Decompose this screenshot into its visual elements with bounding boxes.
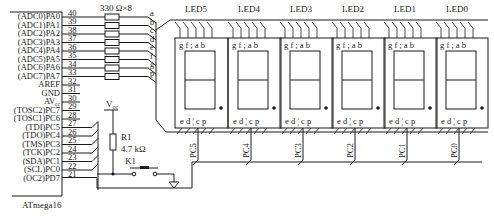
pins-bottom: e d ¦ c p — [337, 116, 363, 126]
resistor-array: 330 Ω×8 abcdefgp — [92, 3, 156, 83]
common-label: PC3 — [293, 143, 303, 158]
decimal-point — [219, 106, 223, 110]
common-label: PC5 — [188, 143, 198, 158]
resistor-array-label: 330 Ω×8 — [100, 3, 133, 13]
pins-bottom: e d ¦ c p — [285, 116, 311, 126]
decimal-point — [376, 106, 380, 110]
led-display-led1: LED1g f ; a be d ¦ c pPC1 — [384, 4, 437, 165]
resistor — [105, 65, 119, 71]
common-label: PC1 — [397, 143, 407, 158]
pins-top: g f ; a b — [388, 40, 414, 50]
display-name: LED2 — [342, 4, 364, 14]
resistor — [105, 40, 119, 46]
led-display-led2: LED2g f ; a be d ¦ c pPC2 — [332, 4, 385, 165]
pins-top: g f ; a b — [232, 40, 258, 50]
decimal-point — [480, 106, 484, 110]
k1-label: K1 — [125, 156, 136, 166]
resistor-r1 — [110, 134, 116, 150]
display-name: LED3 — [290, 4, 312, 14]
decimal-point — [272, 106, 276, 110]
resistor — [105, 14, 119, 20]
led-displays: LED5g f ; a be d ¦ c pPC5LED4g f ; a be … — [175, 4, 488, 165]
reset-pullup-switch: Vcc R1 4.7 kΩ K1 — [62, 99, 192, 188]
resistor — [105, 48, 119, 54]
display-name: LED5 — [185, 4, 207, 14]
common-label: PC4 — [241, 143, 251, 158]
vcc-label: Vcc — [106, 99, 118, 110]
resistor — [105, 74, 119, 80]
pins-top: g f ; a b — [284, 40, 310, 50]
display-name: LED0 — [446, 4, 468, 14]
display-name: LED1 — [394, 4, 416, 14]
decimal-point — [324, 106, 328, 110]
pins-bottom: e d ¦ c p — [233, 116, 259, 126]
common-label: PC2 — [345, 143, 355, 158]
r1-label: R1 — [121, 132, 132, 142]
ground-icon — [169, 182, 179, 188]
pins-top: g f ; a b — [336, 40, 362, 50]
pins-top: g f ; a b — [440, 40, 466, 50]
segment-label: p — [150, 68, 154, 78]
resistor — [105, 57, 119, 63]
pins-bottom: e d ¦ c p — [180, 116, 206, 126]
led-display-led0: LED0g f ; a be d ¦ c pPC0 — [436, 4, 488, 165]
common-label: PC0 — [449, 143, 459, 158]
resistor — [105, 23, 119, 29]
decimal-point — [428, 106, 432, 110]
pins-top: g f ; a b — [179, 40, 205, 50]
resistor — [105, 31, 119, 37]
r1-value: 4.7 kΩ — [121, 144, 146, 154]
pins-bottom: e d ¦ c p — [441, 116, 467, 126]
chip-pins: (ADC0)PA040(ADC1)PA139(ADC2)PA238(ADC3)P… — [14, 8, 92, 183]
pins-bottom: e d ¦ c p — [389, 116, 415, 126]
led-display-led3: LED3g f ; a be d ¦ c pPC3 — [280, 4, 333, 165]
circuit-diagram: ATmega16 (ADC0)PA040(ADC1)PA139(ADC2)PA2… — [0, 0, 494, 216]
chip-name: ATmega16 — [22, 200, 62, 210]
display-name: LED4 — [238, 4, 260, 14]
led-display-led5: LED5g f ; a be d ¦ c pPC5 — [175, 4, 228, 165]
pin-label: (OC2)PD7 — [23, 173, 60, 183]
led-display-led4: LED4g f ; a be d ¦ c pPC4 — [228, 4, 281, 165]
